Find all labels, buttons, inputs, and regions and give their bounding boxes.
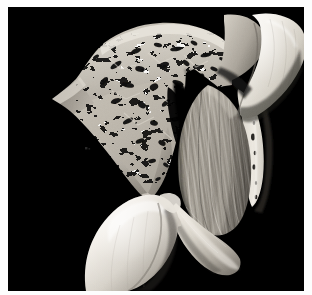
anatomical-photograph xyxy=(8,7,304,291)
figure-root: Trabecular (cancellous) bone, cut sectio… xyxy=(0,0,312,295)
photograph-frame xyxy=(8,7,304,291)
film-grain-overlay xyxy=(8,7,304,291)
